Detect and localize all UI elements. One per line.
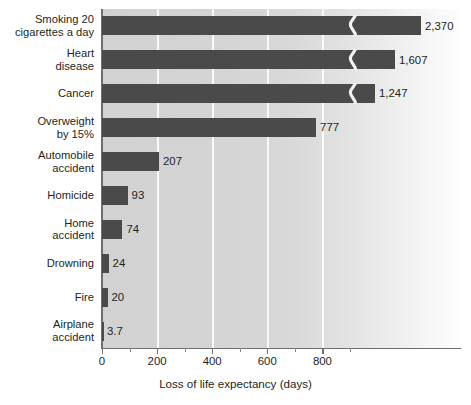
bar-row: Homicide93	[0, 179, 471, 213]
bar	[102, 322, 104, 341]
category-label: Homicide	[0, 189, 94, 202]
value-label: 777	[320, 121, 339, 133]
category-label: Cancer	[0, 87, 94, 100]
value-label: 20	[112, 291, 125, 303]
bar	[102, 220, 122, 239]
x-tick-label: 0	[99, 355, 105, 367]
bar-row: Cancer1,247	[0, 77, 471, 111]
x-tick-major	[157, 348, 158, 354]
bar-row: Fire20	[0, 280, 471, 314]
value-label: 1,607	[399, 54, 428, 66]
x-tick-major	[267, 348, 268, 354]
bar	[102, 152, 159, 171]
x-tick-minor	[350, 348, 351, 352]
bar-row: Drowning24	[0, 246, 471, 280]
x-tick-major	[212, 348, 213, 354]
category-label: Home accident	[0, 217, 94, 242]
x-tick-label: 400	[203, 355, 222, 367]
category-label: Smoking 20 cigarettes a day	[0, 13, 94, 38]
bar-row: Heart disease1,607	[0, 43, 471, 77]
x-tick-label: 600	[258, 355, 277, 367]
value-label: 24	[113, 257, 126, 269]
category-label: Automobile accident	[0, 149, 94, 174]
x-tick-major	[322, 348, 323, 354]
bar	[102, 288, 108, 307]
bar-row: Home accident74	[0, 212, 471, 246]
value-label: 93	[132, 189, 145, 201]
value-label: 74	[126, 223, 139, 235]
bar	[102, 50, 395, 69]
x-axis-line	[101, 348, 461, 349]
bar-row: Overweight by 15%777	[0, 111, 471, 145]
category-label: Overweight by 15%	[0, 115, 94, 140]
x-tick-minor	[185, 348, 186, 352]
value-label: 3.7	[107, 325, 123, 337]
value-label: 207	[163, 155, 182, 167]
category-label: Airplane accident	[0, 318, 94, 343]
bar-row: Automobile accident207	[0, 145, 471, 179]
bar-row: Smoking 20 cigarettes a day2,370	[0, 9, 471, 43]
x-tick-label: 800	[313, 355, 332, 367]
x-tick-label: 200	[148, 355, 167, 367]
bar-row: Airplane accident3.7	[0, 314, 471, 348]
x-tick-minor	[295, 348, 296, 352]
bar	[102, 16, 421, 35]
category-label: Drowning	[0, 257, 94, 270]
bar	[102, 186, 128, 205]
value-label: 1,247	[379, 87, 408, 99]
bar	[102, 254, 109, 273]
bar	[102, 84, 375, 103]
x-axis-title: Loss of life expectancy (days)	[0, 377, 471, 390]
category-label: Heart disease	[0, 47, 94, 72]
x-tick-major	[102, 348, 103, 354]
value-label: 2,370	[425, 20, 454, 32]
bar-chart: Smoking 20 cigarettes a day2,370Heart di…	[0, 0, 471, 405]
x-tick-minor	[240, 348, 241, 352]
x-tick-minor	[130, 348, 131, 352]
bar	[102, 118, 316, 137]
category-label: Fire	[0, 291, 94, 304]
